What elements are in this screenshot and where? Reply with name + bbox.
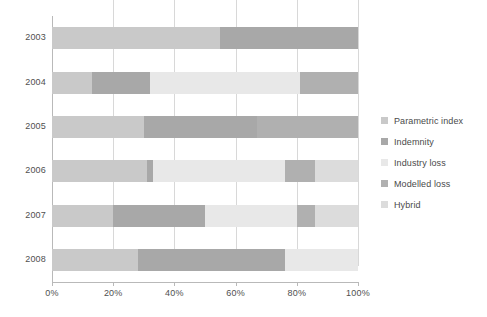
- bar-segment: [300, 72, 358, 94]
- bar-stack: [52, 205, 358, 227]
- bar-segment: [52, 116, 144, 138]
- legend-swatch-icon: [381, 180, 388, 187]
- bar-segment: [52, 27, 220, 49]
- bar-segment: [153, 160, 285, 182]
- legend-item[interactable]: Indemnity: [381, 131, 485, 152]
- y-axis-tick-labels: 200320042005200620072008: [0, 16, 46, 282]
- legend-item[interactable]: Hybrid: [381, 194, 485, 215]
- x-axis-tick-label: 20%: [104, 288, 123, 298]
- bar-row: [52, 72, 358, 94]
- x-tick-mark: [52, 282, 53, 286]
- y-axis-tick-label: 2008: [2, 254, 46, 264]
- chart-legend: Parametric indexIndemnityIndustry lossMo…: [381, 110, 485, 215]
- bar-segment: [138, 249, 285, 271]
- bar-row: [52, 27, 358, 49]
- legend-swatch-icon: [381, 117, 388, 124]
- bar-row: [52, 116, 358, 138]
- legend-item-label: Modelled loss: [394, 179, 450, 189]
- legend-item[interactable]: Modelled loss: [381, 173, 485, 194]
- bar-segment: [297, 205, 315, 227]
- y-axis-tick-label: 2005: [2, 121, 46, 131]
- bar-stack: [52, 116, 358, 138]
- bar-segment: [52, 72, 92, 94]
- bar-segment: [92, 72, 150, 94]
- x-tick-mark: [174, 282, 175, 286]
- y-axis-tick-label: 2003: [2, 32, 46, 42]
- bar-segment: [315, 160, 358, 182]
- bar-segment: [52, 249, 138, 271]
- bar-row: [52, 160, 358, 182]
- x-tick-mark: [358, 282, 359, 286]
- legend-item[interactable]: Industry loss: [381, 152, 485, 173]
- legend-item-label: Indemnity: [394, 137, 434, 147]
- legend-item-label: Industry loss: [394, 158, 446, 168]
- stacked-bar-chart: 200320042005200620072008 0%20%40%60%80%1…: [0, 0, 487, 317]
- x-tick-mark: [236, 282, 237, 286]
- plot-area: [52, 16, 358, 282]
- bar-stack: [52, 160, 358, 182]
- bar-segment: [205, 205, 297, 227]
- bar-segment: [52, 160, 147, 182]
- x-axis-tick-labels: 0%20%40%60%80%100%: [52, 288, 359, 304]
- legend-item-label: Hybrid: [394, 200, 421, 210]
- bar-segment: [113, 205, 205, 227]
- x-axis-tick-label: 100%: [346, 288, 370, 298]
- legend-swatch-icon: [381, 201, 388, 208]
- bar-row: [52, 205, 358, 227]
- bar-stack: [52, 249, 358, 271]
- legend-item[interactable]: Parametric index: [381, 110, 485, 131]
- x-axis-tick-label: 60%: [226, 288, 245, 298]
- x-tick-mark: [113, 282, 114, 286]
- x-tick-mark: [297, 282, 298, 286]
- bar-segment: [220, 27, 358, 49]
- legend-item-label: Parametric index: [394, 116, 463, 126]
- bar-stack: [52, 72, 358, 94]
- y-axis-tick-label: 2007: [2, 210, 46, 220]
- x-axis-line: [52, 282, 359, 283]
- y-axis-tick-label: 2006: [2, 165, 46, 175]
- gridline: [358, 0, 359, 266]
- x-axis-tick-label: 80%: [287, 288, 306, 298]
- x-axis-tick-label: 40%: [165, 288, 184, 298]
- bar-segment: [315, 205, 358, 227]
- x-axis-tick-label: 0%: [45, 288, 58, 298]
- bar-segment: [52, 205, 113, 227]
- y-axis-tick-label: 2004: [2, 77, 46, 87]
- legend-swatch-icon: [381, 138, 388, 145]
- bar-segment: [285, 160, 316, 182]
- bar-segment: [285, 249, 358, 271]
- bar-segment: [144, 116, 257, 138]
- bar-row: [52, 249, 358, 271]
- legend-swatch-icon: [381, 159, 388, 166]
- bar-segment: [150, 72, 300, 94]
- bar-stack: [52, 27, 358, 49]
- bar-segment: [257, 116, 358, 138]
